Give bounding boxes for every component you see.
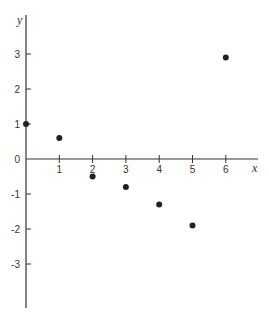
data-point — [123, 184, 129, 190]
y-axis-label: y — [16, 13, 23, 27]
x-tick-label: 3 — [123, 164, 129, 175]
x-tick-label: 2 — [90, 164, 96, 175]
data-points — [23, 55, 229, 229]
x-tick-label: 6 — [223, 164, 229, 175]
y-tick-label: -1 — [11, 189, 20, 200]
y-tick-label: 0 — [14, 154, 20, 165]
data-point — [156, 202, 162, 208]
data-point — [23, 121, 29, 127]
y-tick-label: 3 — [14, 49, 20, 60]
y-tick-label: -3 — [11, 259, 20, 270]
x-tick-label: 1 — [57, 164, 63, 175]
y-tick-label: 2 — [14, 84, 20, 95]
y-tick-label: 1 — [14, 119, 20, 130]
x-axis-label: x — [251, 161, 258, 175]
data-point — [223, 55, 229, 61]
data-point — [56, 135, 62, 141]
scatter-chart: 1234563210-1-2-3 x y — [0, 0, 269, 321]
x-tick-label: 5 — [190, 164, 196, 175]
y-tick-label: -2 — [11, 224, 20, 235]
x-tick-label: 4 — [156, 164, 162, 175]
data-point — [190, 223, 196, 229]
data-point — [90, 174, 96, 180]
